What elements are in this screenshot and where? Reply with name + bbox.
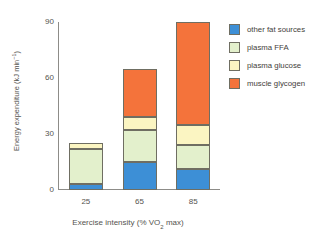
stacked-bar-chart: Energy expenditure (kJ min−1) 0306090 25…	[0, 0, 335, 239]
legend-swatch-icon	[229, 78, 240, 89]
bar-segment[interactable]	[176, 125, 210, 146]
legend-swatch-icon	[229, 60, 240, 71]
bar-segment[interactable]	[123, 162, 157, 190]
y-axis-tick-label: 60	[30, 74, 54, 82]
x-axis-title-text: Exercise intensity (% VO	[72, 218, 160, 227]
x-axis-tick-label: 25	[81, 197, 90, 206]
legend-item-label: muscle glycogen	[247, 79, 305, 88]
legend-item-label: other fat sources	[247, 25, 305, 34]
x-axis-title-suffix: max)	[164, 218, 184, 227]
x-axis-tick-label: 65	[135, 197, 144, 206]
legend-item-label: plasma FFA	[247, 43, 289, 52]
bar-segment[interactable]	[123, 69, 157, 118]
bar-segment[interactable]	[69, 184, 103, 190]
y-axis-tick-label: 90	[30, 18, 54, 26]
bar-segment[interactable]	[176, 145, 210, 169]
y-axis-tick-label: 30	[30, 130, 54, 138]
legend-item-label: plasma glucose	[247, 61, 301, 70]
y-axis-title-text: Energy expenditure (kJ min	[12, 60, 21, 151]
y-axis-title: Energy expenditure (kJ min−1)	[12, 6, 26, 196]
legend-swatch-icon	[229, 42, 240, 53]
legend-item[interactable]: plasma FFA	[229, 38, 305, 56]
y-axis-title-suffix: )	[12, 51, 21, 54]
bar-segment[interactable]	[69, 149, 103, 184]
bar-group[interactable]: 85	[176, 22, 210, 190]
legend-item[interactable]: plasma glucose	[229, 56, 305, 74]
legend-item[interactable]: other fat sources	[229, 20, 305, 38]
legend-swatch-icon	[229, 24, 240, 35]
bar-segment[interactable]	[123, 130, 157, 162]
bar-group[interactable]: 25	[69, 143, 103, 190]
bar-group[interactable]: 65	[123, 69, 157, 190]
bars-container: 256585	[59, 22, 220, 190]
bar-segment[interactable]	[123, 117, 157, 130]
x-axis-tick-label: 85	[189, 197, 198, 206]
bar-segment[interactable]	[176, 169, 210, 190]
plot-area: 0306090 256585	[58, 22, 220, 190]
bar-segment[interactable]	[69, 143, 103, 149]
x-axis-title: Exercise intensity (% VO2 max)	[28, 218, 228, 227]
y-axis-title-exponent: −1	[11, 54, 17, 60]
legend: other fat sourcesplasma FFAplasma glucos…	[229, 20, 305, 92]
legend-item[interactable]: muscle glycogen	[229, 74, 305, 92]
bar-segment[interactable]	[176, 22, 210, 125]
y-axis-tick-label: 0	[30, 186, 54, 194]
